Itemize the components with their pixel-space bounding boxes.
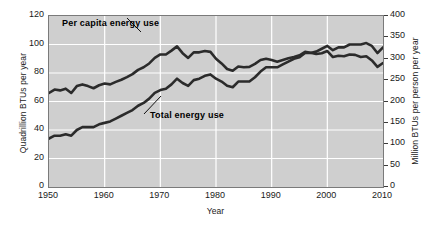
x-tick-1970: 1970	[139, 190, 179, 200]
left-tick-120: 120	[20, 9, 44, 19]
left-tick-0: 0	[20, 180, 44, 190]
x-tick-1990: 1990	[251, 190, 291, 200]
left-tick-100: 100	[20, 38, 44, 48]
x-tick-1960: 1960	[84, 190, 124, 200]
x-tick-1980: 1980	[195, 190, 235, 200]
right-tick-400: 400	[390, 9, 416, 19]
right-tick-350: 350	[390, 30, 416, 40]
left-tick-20: 20	[20, 152, 44, 162]
x-axis-title: Year	[0, 206, 431, 216]
left-tick-60: 60	[20, 95, 44, 105]
annotation-per-capita-energy-use: Per capita energy use	[62, 18, 159, 28]
right-tick-100: 100	[390, 137, 416, 147]
right-tick-300: 300	[390, 52, 416, 62]
right-tick-50: 50	[390, 159, 416, 169]
left-tick-40: 40	[20, 123, 44, 133]
energy-use-chart: Quadrillion BTUs per year Million BTUs p…	[0, 0, 431, 227]
right-tick-0: 0	[390, 180, 416, 190]
right-tick-150: 150	[390, 116, 416, 126]
right-tick-250: 250	[390, 73, 416, 83]
annotation-total-energy-use: Total energy use	[150, 110, 224, 120]
plot-svg	[49, 16, 383, 187]
left-tick-80: 80	[20, 66, 44, 76]
x-tick-2000: 2000	[306, 190, 346, 200]
plot-area	[48, 15, 384, 188]
right-tick-200: 200	[390, 95, 416, 105]
x-tick-1950: 1950	[28, 190, 68, 200]
gridlines	[49, 16, 383, 187]
x-tick-2010: 2010	[362, 190, 402, 200]
